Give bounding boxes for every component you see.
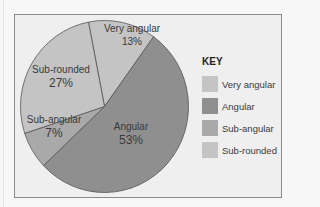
legend: KEY Very angular Angular Sub-angular Sub… <box>202 56 277 161</box>
slice-percent: 13% <box>104 35 160 49</box>
slice-name: Very angular <box>104 23 160 35</box>
slice-label-very-angular: Very angular 13% <box>104 23 160 49</box>
slice-percent: 27% <box>32 76 90 90</box>
legend-label: Sub-rounded <box>222 145 277 156</box>
slice-name: Angular <box>114 121 148 133</box>
legend-title: KEY <box>202 56 277 67</box>
slice-name: Sub-rounded <box>32 64 90 76</box>
slice-label-sub-angular: Sub-angular 7% <box>27 114 81 140</box>
slice-percent: 53% <box>114 133 148 147</box>
legend-label: Angular <box>222 101 255 112</box>
legend-item-angular: Angular <box>202 95 277 117</box>
legend-label: Very angular <box>222 79 275 90</box>
slice-label-angular: Angular 53% <box>114 121 148 147</box>
legend-swatch <box>202 120 218 136</box>
legend-label: Sub-angular <box>222 123 274 134</box>
legend-swatch <box>202 76 218 92</box>
slice-percent: 7% <box>27 126 81 140</box>
legend-item-very-angular: Very angular <box>202 73 277 95</box>
legend-swatch <box>202 142 218 158</box>
legend-item-sub-angular: Sub-angular <box>202 117 277 139</box>
legend-item-sub-rounded: Sub-rounded <box>202 139 277 161</box>
slice-label-sub-rounded: Sub-rounded 27% <box>32 64 90 90</box>
slice-name: Sub-angular <box>27 114 81 126</box>
legend-swatch <box>202 98 218 114</box>
